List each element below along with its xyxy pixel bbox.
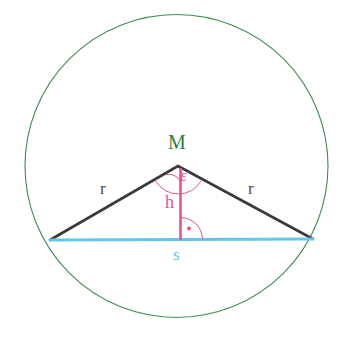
geometry-figure: M r r h s ε [0, 0, 348, 339]
right-angle-arc [181, 218, 203, 240]
label-height-h: h [165, 193, 174, 211]
label-chord-s: s [173, 246, 180, 263]
epsilon-full-arc [156, 181, 201, 194]
geometry-canvas [0, 0, 348, 339]
label-radius-left: r [100, 180, 106, 197]
epsilon-half-arc [165, 174, 180, 181]
label-apex-m: M [168, 132, 186, 152]
label-angle-epsilon: ε [180, 167, 187, 184]
label-radius-right: r [248, 180, 254, 197]
radius-left-segment [50, 166, 178, 240]
right-angle-dot [187, 227, 191, 231]
radius-right-segment [178, 166, 313, 239]
